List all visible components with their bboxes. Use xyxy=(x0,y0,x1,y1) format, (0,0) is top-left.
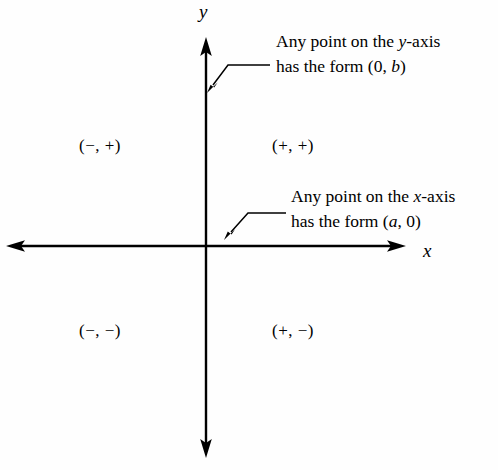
quadrant-3-sign-label: (−, −) xyxy=(79,322,121,339)
y-axis-annotation-line-1: Any point on the y-axis xyxy=(276,29,440,54)
x-axis-annotation-line-2: has the form (a, 0) xyxy=(291,209,455,234)
x-leader-line xyxy=(231,213,286,232)
x-axis-annotation-line-1: Any point on the x-axis xyxy=(291,184,455,209)
quadrant-1-sign-label: (+, +) xyxy=(272,137,314,154)
y-note-line1-suffix: -axis xyxy=(406,31,440,51)
coordinate-plane-figure: y x (−, +) (+, +) (−, −) (+, −) Any poin… xyxy=(0,0,498,470)
y-axis-label: y xyxy=(199,2,207,21)
x-note-line2-suffix: , 0) xyxy=(397,211,420,231)
y-note-line2-variable: b xyxy=(391,56,400,76)
y-leader-arrowhead xyxy=(207,82,218,93)
y-note-line2-prefix: has the form (0, xyxy=(276,56,391,76)
x-note-line2-prefix: has the form ( xyxy=(291,211,389,231)
y-axis-callout-leader xyxy=(207,65,270,93)
y-note-line1-prefix: Any point on the xyxy=(276,31,399,51)
x-note-line1-prefix: Any point on the xyxy=(291,186,414,206)
y-axis-group xyxy=(200,37,212,458)
y-leader-line xyxy=(213,65,270,85)
x-axis-annotation: Any point on the x-axis has the form (a,… xyxy=(291,184,455,234)
quadrant-4-sign-label: (+, −) xyxy=(272,322,314,339)
x-leader-arrowhead xyxy=(224,229,235,240)
y-axis-annotation-line-2: has the form (0, b) xyxy=(276,54,440,79)
x-note-line1-suffix: -axis xyxy=(421,186,455,206)
x-axis-callout-leader xyxy=(224,213,286,240)
y-axis-annotation: Any point on the y-axis has the form (0,… xyxy=(276,29,440,79)
y-note-line2-suffix: ) xyxy=(400,56,406,76)
quadrant-2-sign-label: (−, +) xyxy=(79,137,121,154)
x-axis-label: x xyxy=(423,241,431,260)
